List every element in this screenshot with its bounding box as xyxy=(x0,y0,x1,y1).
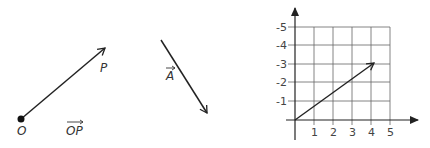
y-tick-1: -1 xyxy=(276,95,287,108)
x-tick-1: 1 xyxy=(311,126,318,139)
point-p-label: P xyxy=(100,61,108,75)
grid-vector-line xyxy=(295,63,374,120)
panel-grid-vector: -1 -2 -3 -4 -5 1 2 3 4 5 xyxy=(276,8,418,140)
grid-lines xyxy=(288,27,390,125)
x-tick-5: 5 xyxy=(387,126,394,139)
vector-op-line xyxy=(21,48,105,119)
y-tick-4: -4 xyxy=(276,39,287,52)
y-tick-3: -3 xyxy=(276,58,287,71)
y-tick-5: -5 xyxy=(276,21,287,34)
origin-point xyxy=(18,116,25,123)
panel-a-vector: A xyxy=(161,40,207,113)
panel-op-vector: O P OP xyxy=(17,48,108,138)
x-tick-2: 2 xyxy=(330,126,337,139)
vector-diagrams: O P OP A xyxy=(0,0,430,148)
vector-op-label: OP xyxy=(66,124,83,138)
x-tick-4: 4 xyxy=(368,126,375,139)
y-tick-2: -2 xyxy=(276,76,287,89)
x-tick-3: 3 xyxy=(349,126,356,139)
origin-label: O xyxy=(17,124,26,138)
vector-a-label: A xyxy=(165,69,174,83)
